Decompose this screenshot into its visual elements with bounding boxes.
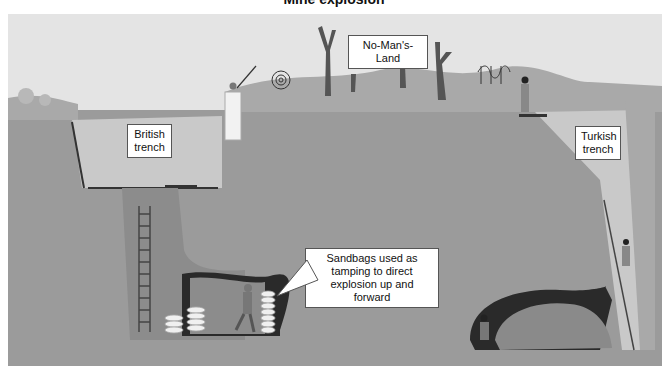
sandbag-parapet <box>225 92 241 140</box>
label-sandbags-callout: Sandbags used as tamping to direct explo… <box>305 248 439 308</box>
mine-cross-section-diagram <box>0 0 668 386</box>
label-british-trench: British trench <box>127 124 172 158</box>
turkish-sentry-figure <box>521 77 529 113</box>
turkish-climber-figure <box>622 239 630 266</box>
bush <box>18 88 34 104</box>
label-no-mans-land: No-Man's-Land <box>348 35 428 69</box>
label-turkish-trench: Turkish trench <box>575 126 621 160</box>
